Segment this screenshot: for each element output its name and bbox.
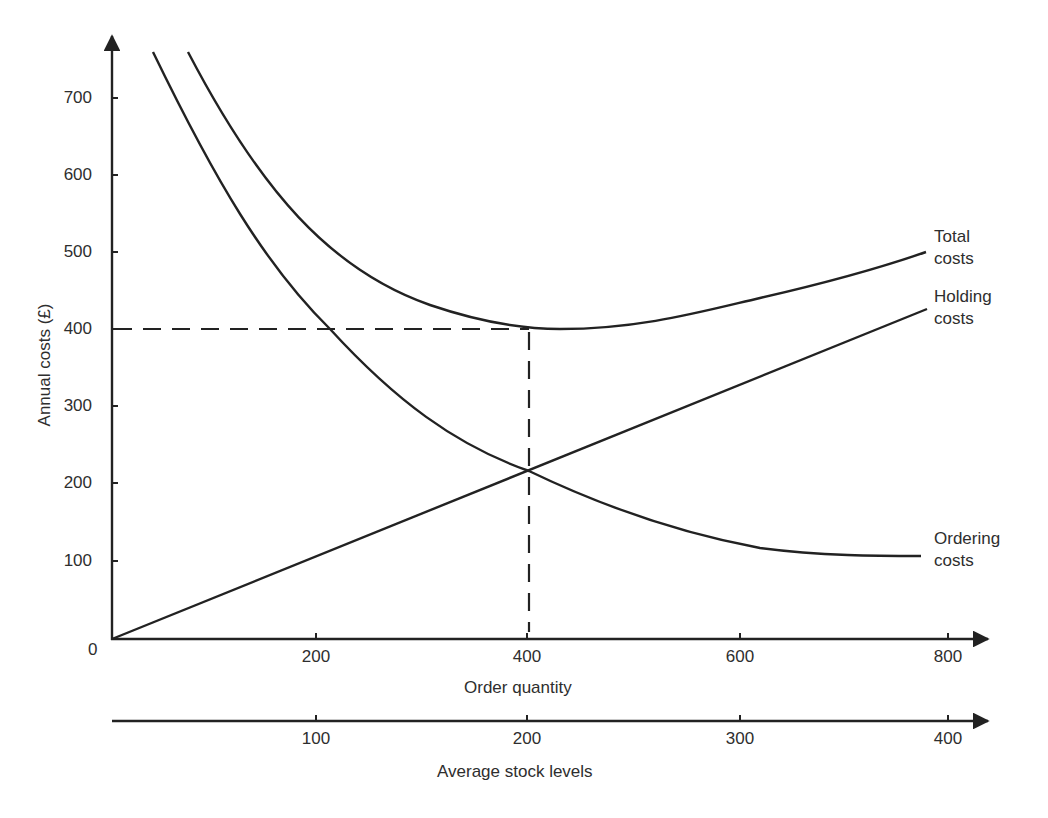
holding-costs-label-line2: costs: [934, 308, 1044, 330]
y-tick-label-300: 300: [52, 396, 92, 416]
x2-tick-label-400: 400: [918, 729, 978, 749]
y-tick-label-400: 400: [52, 319, 92, 339]
x-tick-label-800: 800: [918, 647, 978, 667]
x2-tick-label-300: 300: [710, 729, 770, 749]
x2-tick-label-200: 200: [497, 729, 557, 749]
origin-label: 0: [88, 640, 97, 660]
x-axis-title: Order quantity: [464, 678, 572, 698]
x-ticks: [316, 633, 948, 721]
y-axis-title: Annual costs (£): [35, 265, 55, 465]
y-tick-label-600: 600: [52, 165, 92, 185]
total-costs-curve: [188, 52, 926, 329]
y-tick-label-700: 700: [52, 88, 92, 108]
total-costs-label-line1: Total: [934, 226, 1044, 248]
ordering-costs-label: Ordering costs: [934, 528, 1044, 572]
y-tick-label-100: 100: [52, 551, 92, 571]
ordering-costs-label-line2: costs: [934, 550, 1044, 572]
y-tick-label-200: 200: [52, 473, 92, 493]
x-tick-label-400: 400: [497, 647, 557, 667]
ordering-costs-curve: [153, 52, 921, 556]
x-tick-label-200: 200: [286, 647, 346, 667]
ordering-costs-label-line1: Ordering: [934, 528, 1044, 550]
y-tick-label-500: 500: [52, 242, 92, 262]
x-tick-label-600: 600: [710, 647, 770, 667]
holding-costs-label-line1: Holding: [934, 286, 1044, 308]
x-axis-secondary-title: Average stock levels: [437, 762, 593, 782]
total-costs-label-line2: costs: [934, 248, 1044, 270]
holding-costs-label: Holding costs: [934, 286, 1044, 330]
x2-tick-label-100: 100: [286, 729, 346, 749]
total-costs-label: Total costs: [934, 226, 1044, 270]
holding-costs-line: [112, 309, 927, 639]
